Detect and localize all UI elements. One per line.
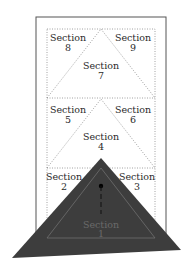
diagram-canvas: Section8 Section9 Section7 Section5 Sect…	[0, 0, 183, 271]
